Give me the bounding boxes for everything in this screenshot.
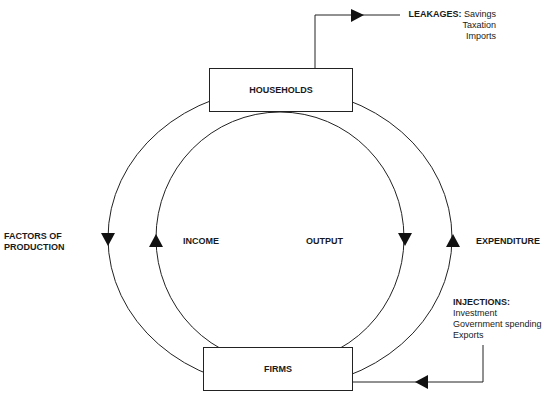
- leakage-item: Taxation: [406, 20, 496, 31]
- leakages-heading: LEAKAGES:: [408, 9, 461, 19]
- firms-node: FIRMS: [203, 347, 353, 391]
- leakages-connector: [315, 15, 400, 68]
- output-arrow-down-icon: [398, 233, 412, 246]
- expenditure-label: EXPENDITURE: [476, 236, 540, 247]
- outer-flow-loop: [108, 88, 452, 388]
- factors-arrow-down-icon: [101, 233, 115, 246]
- injections-arrow-left-icon: [415, 375, 428, 389]
- factors-of-production-label: FACTORS OF PRODUCTION: [4, 231, 65, 253]
- households-label: HOUSEHOLDS: [249, 85, 313, 95]
- injection-item: Investment: [453, 308, 542, 319]
- output-label: OUTPUT: [306, 236, 343, 247]
- injections-block: INJECTIONS: Investment Government spendi…: [453, 297, 542, 341]
- leakage-item: Savings: [464, 9, 496, 19]
- leakages-block: LEAKAGES: Savings Taxation Imports: [406, 9, 496, 42]
- injection-item: Government spending: [453, 319, 542, 330]
- injections-connector: [353, 345, 483, 382]
- injections-heading: INJECTIONS:: [453, 297, 542, 308]
- firms-label: FIRMS: [264, 364, 292, 374]
- households-node: HOUSEHOLDS: [209, 68, 353, 112]
- income-arrow-up-icon: [149, 234, 163, 247]
- expenditure-arrow-up-icon: [446, 234, 460, 247]
- leakages-arrow-right-icon: [351, 9, 364, 22]
- income-label: INCOME: [183, 236, 219, 247]
- leakage-item: Imports: [406, 31, 496, 42]
- injection-item: Exports: [453, 330, 542, 341]
